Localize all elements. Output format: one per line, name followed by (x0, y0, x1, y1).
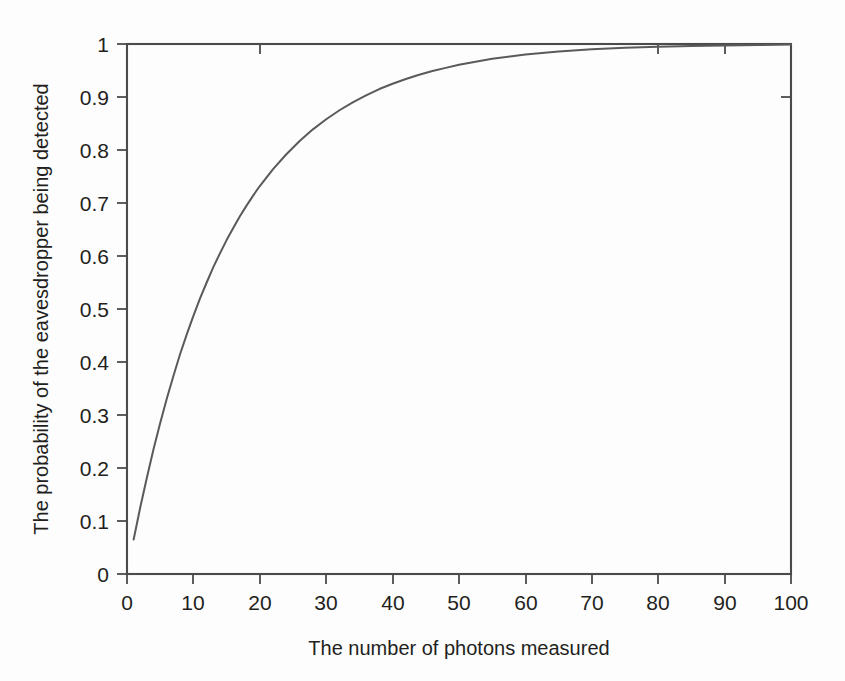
y-tick-label: 0.4 (80, 351, 110, 374)
y-axis-title: The probability of the eavesdropper bein… (30, 83, 52, 534)
chart-figure: 1 0.9 0.8 0.7 0.6 0.5 0.4 0.3 0.2 0.1 0 … (0, 0, 845, 681)
line-chart: 1 0.9 0.8 0.7 0.6 0.5 0.4 0.3 0.2 0.1 0 … (0, 0, 845, 681)
x-tick-label: 40 (381, 591, 404, 614)
x-tick-label: 0 (121, 591, 133, 614)
y-tick-label: 0.1 (80, 510, 109, 533)
y-tick-label: 0.2 (80, 457, 109, 480)
x-tick-label: 50 (447, 591, 470, 614)
y-tick-label: 0.3 (80, 404, 109, 427)
x-tick-label: 10 (181, 591, 204, 614)
y-tick-label: 0.9 (80, 86, 109, 109)
top-frame-tick-marks (260, 44, 725, 54)
y-tick-label: 0.6 (80, 245, 109, 268)
x-tick-label: 20 (248, 591, 271, 614)
y-tick-label: 0.7 (80, 192, 109, 215)
x-tick-label: 30 (314, 591, 337, 614)
x-tick-label: 70 (580, 591, 603, 614)
y-tick-label: 0.8 (80, 139, 109, 162)
x-tick-labels: 0 10 20 30 40 50 60 70 80 90 100 (121, 591, 808, 614)
x-tick-label: 100 (773, 591, 808, 614)
plot-frame (127, 44, 791, 574)
x-tick-label: 60 (514, 591, 537, 614)
y-tick-label: 1 (97, 33, 109, 56)
data-series-line (134, 45, 791, 540)
x-tick-label: 90 (713, 591, 736, 614)
x-axis-title: The number of photons measured (308, 637, 609, 659)
y-tick-label: 0 (97, 563, 109, 586)
y-tick-label: 0.5 (80, 298, 109, 321)
y-tick-marks (117, 44, 127, 574)
x-tick-marks (127, 574, 791, 584)
y-tick-labels: 1 0.9 0.8 0.7 0.6 0.5 0.4 0.3 0.2 0.1 0 (80, 33, 110, 586)
x-tick-label: 80 (646, 591, 669, 614)
